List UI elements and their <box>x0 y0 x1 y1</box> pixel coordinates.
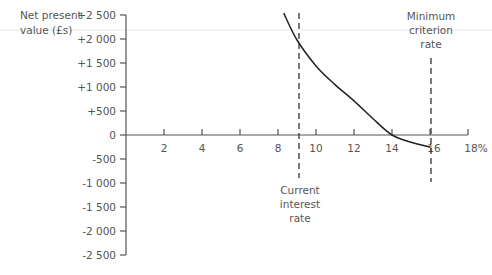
y-tick-label: +2 000 <box>77 33 116 45</box>
y-tick-label: +1 000 <box>77 81 116 93</box>
y-tick-label: -2 000 <box>82 225 116 237</box>
svg-text:Current: Current <box>280 184 319 196</box>
current-rate-label: Current interest rate <box>280 184 320 224</box>
svg-text:rate: rate <box>420 38 441 50</box>
y-tick-label: +2 500 <box>77 9 116 21</box>
y-tick-label: -1 500 <box>82 201 116 213</box>
x-tick-label: 8 <box>275 142 282 154</box>
y-tick-label: +500 <box>87 105 116 117</box>
svg-text:criterion: criterion <box>409 24 453 36</box>
x-tick-label: 6 <box>237 142 244 154</box>
svg-text:interest: interest <box>280 198 320 210</box>
x-tick-label: 14 <box>385 142 399 154</box>
npv-chart: Net present value (£s) +2 500+2 000+1 50… <box>0 0 492 275</box>
x-tick-label: 18% <box>464 142 487 154</box>
y-tick-label: 0 <box>109 129 116 141</box>
y-tick-label: +1 500 <box>77 57 116 69</box>
y-tick-label: -1 000 <box>82 177 116 189</box>
npv-curve <box>284 13 430 147</box>
x-tick-label: 10 <box>309 142 322 154</box>
minimum-criterion-label: Minimum criterion rate <box>407 10 456 50</box>
x-tick-label: 12 <box>347 142 360 154</box>
x-tick-label: 2 <box>161 142 168 154</box>
svg-text:rate: rate <box>289 212 310 224</box>
y-ticks: +2 500+2 000+1 500+1 000+5000-500-1 000-… <box>77 9 126 261</box>
y-axis-label-line-1: Net present <box>20 9 82 21</box>
y-tick-label: -500 <box>92 153 116 165</box>
x-tick-label: 4 <box>199 142 206 154</box>
x-tick-label: 16 <box>427 142 441 154</box>
svg-text:Minimum: Minimum <box>407 10 456 22</box>
x-ticks: 24681012141618% <box>161 129 488 154</box>
y-axis-label-line-2: value (£s) <box>20 24 72 36</box>
y-tick-label: -2 500 <box>82 249 116 261</box>
